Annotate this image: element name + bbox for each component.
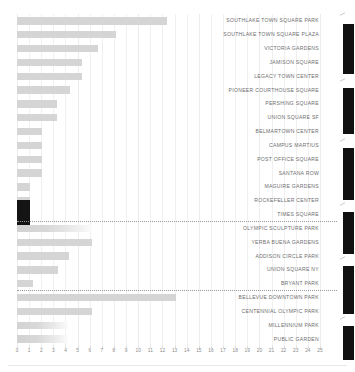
x-tick-label: 25 [317,348,322,353]
x-tick-label: 19 [245,348,250,353]
bar[interactable] [17,169,42,176]
x-tick-label: 16 [208,348,213,353]
x-tick-label: 7 [100,348,103,353]
x-tick-label: 10 [136,348,141,353]
category-label: CAMPUS MARTIUS [269,142,319,149]
adjacent-panel-crop [340,0,355,372]
x-tick-label: 14 [184,348,189,353]
bar-row[interactable] [17,280,320,287]
category-label: PIONEER COURTHOUSE SQUARE [229,87,319,94]
bar-chart: SOUTHLAKE TOWN SQUARE PARKSOUTHLAKE TOWN… [0,0,355,372]
x-tick-label: 6 [88,348,91,353]
category-label: MILLENNIUM PARK [268,322,319,329]
bar[interactable] [17,86,70,93]
category-label: ROCKEFELLER CENTER [254,197,319,204]
bar[interactable] [17,114,57,121]
category-label: LEGACY TOWN CENTER [254,73,319,80]
category-label: BELMARTOWN CENTER [256,128,319,135]
bar[interactable] [17,142,42,149]
bar[interactable] [17,45,98,52]
x-tick-label: 9 [125,348,128,353]
category-label: POST OFFICE SQUARE [257,156,319,163]
category-label: UNION SQUARE SF [268,114,319,121]
bar[interactable] [17,17,167,24]
category-label: MAGUIRE GARDENS [264,183,319,190]
x-tick-label: 23 [293,348,298,353]
x-tick-label: 18 [232,348,237,353]
bar[interactable] [17,322,68,329]
bar[interactable] [17,266,58,273]
bar[interactable] [17,294,176,301]
group-separator [17,221,337,222]
bar[interactable] [17,335,68,342]
category-label: SOUTHLAKE TOWN SQUARE PLAZA [223,31,319,38]
x-tick-label: 4 [64,348,67,353]
category-label: YERBA BUENA GARDENS [251,239,319,246]
bar[interactable] [17,156,42,163]
x-tick-label: 11 [148,348,153,353]
bar[interactable] [17,73,82,80]
bar[interactable] [17,225,92,232]
x-tick-label: 1 [28,348,31,353]
x-tick-label: 8 [113,348,116,353]
category-label: PUBLIC GARDEN [274,336,319,343]
bar[interactable] [17,183,30,190]
x-tick-label: 24 [305,348,310,353]
x-tick-label: 20 [257,348,262,353]
category-label: BRYANT PARK [281,280,319,287]
x-axis: 0123456789101112131415161718192021222324… [17,346,320,358]
category-label: VICTORIA GARDENS [264,45,319,52]
category-label: CENTENNIAL OLYMPIC PARK [242,308,319,315]
category-label: PERSHING SQUARE [265,100,319,107]
x-tick-label: 3 [52,348,55,353]
bar[interactable] [17,128,42,135]
bar[interactable] [17,280,33,287]
gridline [320,14,321,346]
category-label: BELLEVUE DOWNTOWN PARK [239,294,319,301]
x-tick-label: 0 [16,348,19,353]
category-label: TIMES SQUARE [277,211,319,218]
bottom-divider [8,365,347,366]
bar[interactable] [17,100,57,107]
category-label: ADDISON CIRCLE PARK [255,253,319,260]
category-label: OLYMPIC SCULPTURE PARK [243,225,319,232]
x-tick-label: 13 [172,348,177,353]
category-label: JAMISON SQUARE [270,59,320,66]
bar[interactable] [17,239,92,246]
bar[interactable] [17,308,92,315]
category-label: SANTANA ROW [279,170,319,177]
bar[interactable] [17,31,116,38]
x-tick-label: 12 [160,348,165,353]
category-label: UNION SQUARE NY [267,266,319,273]
x-tick-label: 15 [196,348,201,353]
group-separator [17,290,337,291]
bar-row[interactable] [17,169,320,176]
bar[interactable] [17,252,69,259]
category-label: SOUTHLAKE TOWN SQUARE PARK [226,17,319,24]
x-tick-label: 21 [269,348,274,353]
x-tick-label: 2 [40,348,43,353]
x-tick-label: 17 [220,348,225,353]
bar[interactable] [17,59,82,66]
x-tick-label: 5 [76,348,79,353]
x-tick-label: 22 [281,348,286,353]
